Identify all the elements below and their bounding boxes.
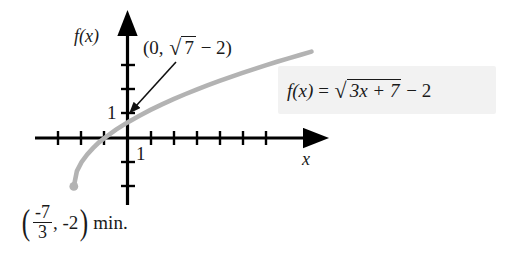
equation-equals: = — [318, 80, 329, 101]
equation-text: f(x) = √3x + 7 − 2 — [287, 79, 431, 101]
equation-tail: − 2 — [406, 80, 431, 101]
y-axis-label: f(x) — [74, 27, 99, 45]
intercept-radical: √7 — [168, 36, 196, 58]
min-denominator: 3 — [36, 223, 49, 242]
x-tick-label-1: 1 — [136, 144, 146, 163]
equation-radicand: 3x + 7 — [347, 79, 402, 100]
min-fraction: -7 3 — [33, 203, 52, 242]
y-tick-label-1: 1 — [107, 103, 117, 122]
equation-radical: √3x + 7 — [334, 79, 402, 101]
radical-symbol: √ — [169, 37, 181, 59]
intercept-radicand: 7 — [181, 36, 196, 57]
intercept-tail: − 2) — [201, 37, 232, 58]
graph-figure: f(x) x 1 1 (0, √7 − 2) f(x) = √3x + 7 − … — [0, 0, 509, 276]
min-y-value: , -2 — [53, 213, 78, 232]
min-close-paren: ) — [80, 206, 88, 238]
min-numerator: -7 — [33, 203, 52, 222]
minimum-annotation: ( -7 3 , -2 ) min. — [20, 203, 128, 242]
intercept-open: (0, — [143, 37, 164, 58]
radical-symbol: √ — [335, 80, 347, 102]
minimum-point-dot — [69, 182, 78, 191]
x-axis-label: x — [302, 150, 310, 168]
min-note: min. — [93, 213, 127, 232]
min-open-paren: ( — [22, 206, 30, 238]
intercept-annotation: (0, √7 − 2) — [143, 36, 232, 58]
equation-lhs: f(x) — [287, 80, 313, 101]
